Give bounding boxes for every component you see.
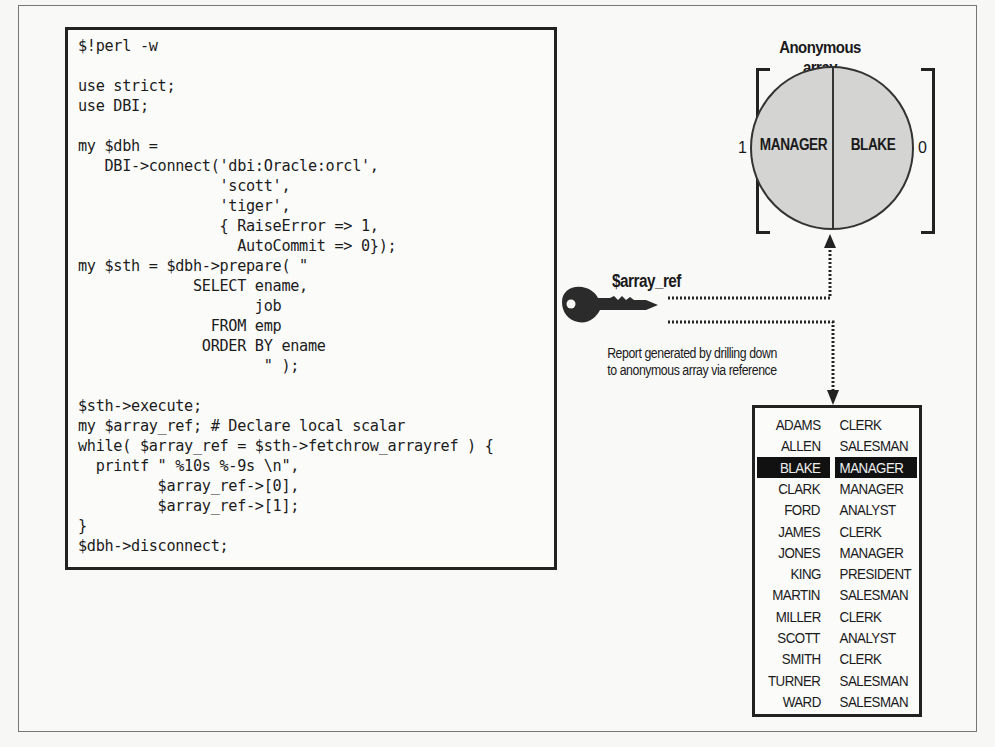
report-row: MILLERCLERK <box>755 606 919 627</box>
report-row: FORDANALYST <box>755 499 919 520</box>
employee-job: SALESMAN <box>837 670 911 691</box>
report-row: ADAMSCLERK <box>755 414 919 435</box>
employee-name: JONES <box>776 542 823 563</box>
employee-job: CLERK <box>837 414 884 435</box>
employee-name: SCOTT <box>775 627 823 648</box>
report-row: WARDSALESMAN <box>755 691 919 712</box>
employee-job: ANALYST <box>837 499 898 520</box>
report-row: TURNERSALESMAN <box>755 670 919 691</box>
employee-job: SALESMAN <box>837 584 911 605</box>
employee-job: SALESMAN <box>837 435 911 456</box>
employee-job: CLERK <box>837 606 884 627</box>
report-row: MARTINSALESMAN <box>755 584 919 605</box>
report-caption: Report generated by drilling down to ano… <box>586 345 797 379</box>
report-row: KINGPRESIDENT <box>755 563 919 584</box>
report-row: ALLENSALESMAN <box>755 435 919 456</box>
employee-name: MARTIN <box>770 584 823 605</box>
report-output: ADAMSCLERKALLENSALESMANBLAKEMANAGERCLARK… <box>752 405 922 717</box>
report-row: CLARKMANAGER <box>755 478 919 499</box>
employee-name: ALLEN <box>778 435 823 456</box>
employee-job: CLERK <box>837 648 884 669</box>
report-row: SCOTTANALYST <box>755 627 919 648</box>
employee-name: CLARK <box>776 478 823 499</box>
report-row: JONESMANAGER <box>755 542 919 563</box>
employee-name: TURNER <box>765 670 823 691</box>
report-row-highlighted: BLAKEMANAGER <box>755 457 919 478</box>
employee-name: SMITH <box>779 648 823 669</box>
employee-name: FORD <box>782 499 823 520</box>
employee-name: BLAKE <box>777 457 823 478</box>
report-row: JAMESCLERK <box>755 521 919 542</box>
employee-job: SALESMAN <box>837 691 911 712</box>
employee-job: MANAGER <box>837 478 906 499</box>
employee-name: KING <box>787 563 823 584</box>
employee-name: WARD <box>780 691 823 712</box>
report-row: SMITHCLERK <box>755 648 919 669</box>
employee-name: JAMES <box>776 521 823 542</box>
employee-job: ANALYST <box>837 627 898 648</box>
employee-name: MILLER <box>773 606 823 627</box>
employee-job: PRESIDENT <box>837 563 914 584</box>
caption-line-2: to anonymous array via reference <box>586 362 797 379</box>
employee-job: CLERK <box>837 521 884 542</box>
caption-line-1: Report generated by drilling down <box>586 345 797 362</box>
employee-job: MANAGER <box>837 542 906 563</box>
employee-job: MANAGER <box>837 457 906 478</box>
employee-name: ADAMS <box>773 414 823 435</box>
